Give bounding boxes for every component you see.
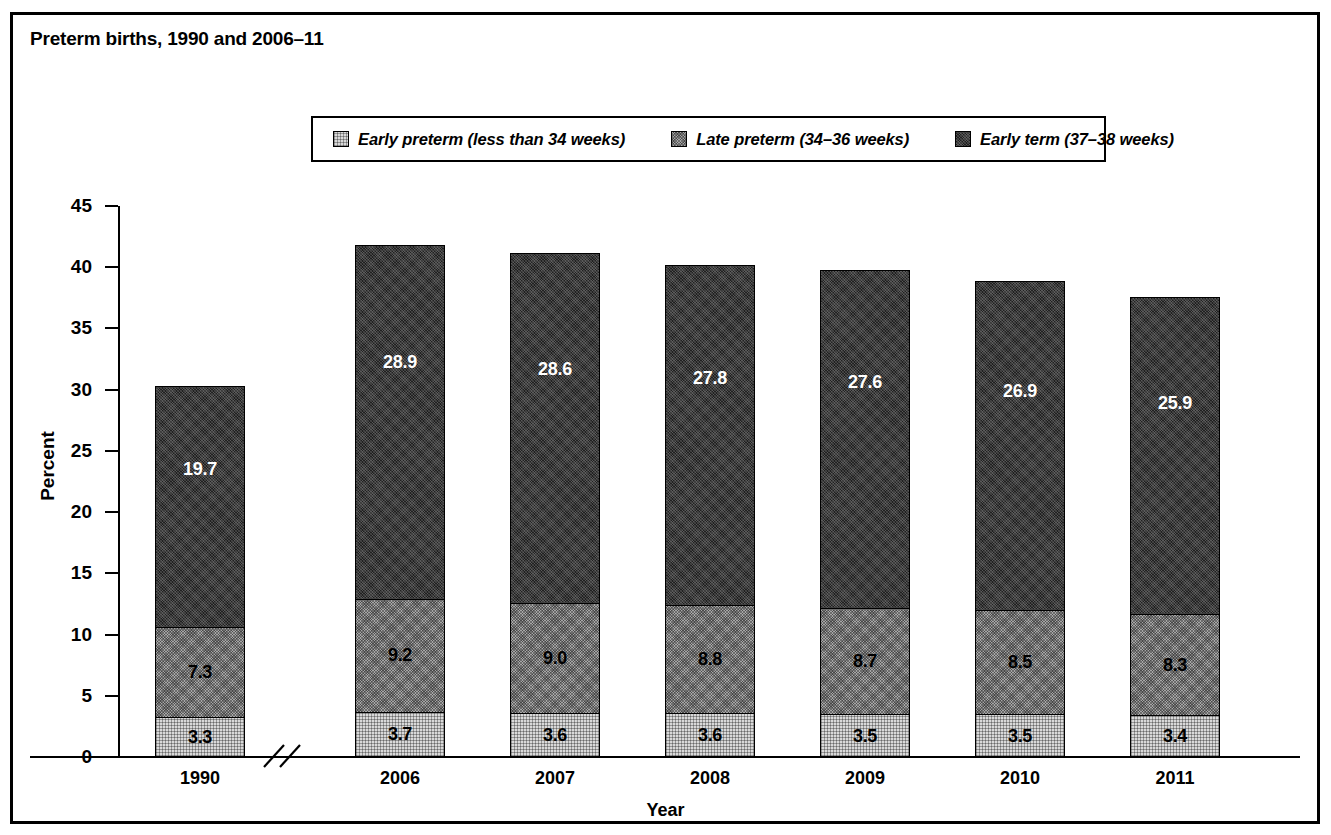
y-tick-0 bbox=[105, 756, 118, 758]
y-tick-5 bbox=[105, 695, 118, 697]
bar-value-label: 19.7 bbox=[156, 459, 244, 480]
stacked-bar: 3.79.228.9 bbox=[355, 245, 445, 757]
x-tick-label-1990: 1990 bbox=[120, 768, 280, 789]
bar-value-label: 3.3 bbox=[156, 727, 244, 748]
bar-segment: 3.6 bbox=[665, 713, 755, 757]
plot-area: Percent 051015202530354045 3.37.319.73.7… bbox=[0, 0, 1331, 835]
bar-value-label: 3.5 bbox=[976, 726, 1064, 747]
y-tick-label-15: 15 bbox=[26, 562, 92, 584]
bar-value-label: 27.8 bbox=[666, 368, 754, 389]
bar-segment: 26.9 bbox=[975, 281, 1065, 610]
bar-segment: 7.3 bbox=[155, 627, 245, 716]
y-tick-40 bbox=[105, 266, 118, 268]
y-tick-10 bbox=[105, 634, 118, 636]
y-tick-label-5: 5 bbox=[26, 685, 92, 707]
stacked-bar: 3.37.319.7 bbox=[155, 386, 245, 757]
stacked-bar: 3.68.827.8 bbox=[665, 265, 755, 757]
bar-value-label: 3.6 bbox=[666, 725, 754, 746]
x-tick-label-2011: 2011 bbox=[1095, 768, 1255, 789]
y-tick-45 bbox=[105, 205, 118, 207]
x-tick-label-2006: 2006 bbox=[320, 768, 480, 789]
y-tick-25 bbox=[105, 450, 118, 452]
stacked-bar: 3.48.325.9 bbox=[1130, 297, 1220, 757]
y-tick-label-0: 0 bbox=[26, 746, 92, 768]
bar-segment: 8.3 bbox=[1130, 614, 1220, 716]
figure: Preterm births, 1990 and 2006–11 Early p… bbox=[0, 0, 1331, 835]
bar-value-label: 27.6 bbox=[821, 372, 909, 393]
bar-segment: 28.9 bbox=[355, 245, 445, 599]
stacked-bar: 3.58.727.6 bbox=[820, 270, 910, 757]
bar-segment: 9.0 bbox=[510, 603, 600, 713]
x-tick-label-2010: 2010 bbox=[940, 768, 1100, 789]
y-tick-label-40: 40 bbox=[26, 256, 92, 278]
bar-segment: 8.5 bbox=[975, 610, 1065, 714]
stacked-bar: 3.58.526.9 bbox=[975, 281, 1065, 757]
bar-value-label: 25.9 bbox=[1131, 393, 1219, 414]
y-tick-30 bbox=[105, 389, 118, 391]
bar-segment: 3.6 bbox=[510, 713, 600, 757]
bar-value-label: 9.2 bbox=[356, 645, 444, 666]
y-tick-15 bbox=[105, 572, 118, 574]
bar-segment: 3.4 bbox=[1130, 715, 1220, 757]
bar-segment: 25.9 bbox=[1130, 297, 1220, 614]
bar-value-label: 26.9 bbox=[976, 381, 1064, 402]
bar-segment: 3.5 bbox=[820, 714, 910, 757]
bar-value-label: 3.6 bbox=[511, 725, 599, 746]
y-tick-label-30: 30 bbox=[26, 379, 92, 401]
bar-segment: 8.7 bbox=[820, 608, 910, 715]
stacked-bar: 3.69.028.6 bbox=[510, 253, 600, 757]
bar-segment: 27.6 bbox=[820, 270, 910, 608]
bar-segment: 3.5 bbox=[975, 714, 1065, 757]
y-axis-line bbox=[118, 206, 120, 758]
y-tick-label-10: 10 bbox=[26, 624, 92, 646]
bar-value-label: 7.3 bbox=[156, 662, 244, 683]
bar-segment: 3.3 bbox=[155, 717, 245, 757]
bar-segment: 3.7 bbox=[355, 712, 445, 757]
y-tick-20 bbox=[105, 511, 118, 513]
bar-value-label: 3.5 bbox=[821, 726, 909, 747]
bar-segment: 9.2 bbox=[355, 599, 445, 712]
bar-value-label: 8.3 bbox=[1131, 655, 1219, 676]
y-tick-35 bbox=[105, 327, 118, 329]
bar-value-label: 9.0 bbox=[511, 648, 599, 669]
y-tick-label-25: 25 bbox=[26, 440, 92, 462]
x-tick-label-2008: 2008 bbox=[630, 768, 790, 789]
bar-segment: 19.7 bbox=[155, 386, 245, 627]
x-tick-label-2007: 2007 bbox=[475, 768, 635, 789]
bar-value-label: 8.8 bbox=[666, 649, 754, 670]
bar-value-label: 8.7 bbox=[821, 651, 909, 672]
bar-value-label: 3.7 bbox=[356, 724, 444, 745]
bar-value-label: 28.9 bbox=[356, 352, 444, 373]
bar-segment: 28.6 bbox=[510, 253, 600, 603]
y-tick-label-45: 45 bbox=[26, 195, 92, 217]
x-axis-title: Year bbox=[0, 800, 1331, 821]
bar-value-label: 8.5 bbox=[976, 652, 1064, 673]
y-tick-label-20: 20 bbox=[26, 501, 92, 523]
y-tick-label-35: 35 bbox=[26, 317, 92, 339]
bar-segment: 8.8 bbox=[665, 605, 755, 713]
bar-segment: 27.8 bbox=[665, 265, 755, 605]
bar-value-label: 28.6 bbox=[511, 359, 599, 380]
bar-value-label: 3.4 bbox=[1131, 726, 1219, 747]
x-tick-label-2009: 2009 bbox=[785, 768, 945, 789]
